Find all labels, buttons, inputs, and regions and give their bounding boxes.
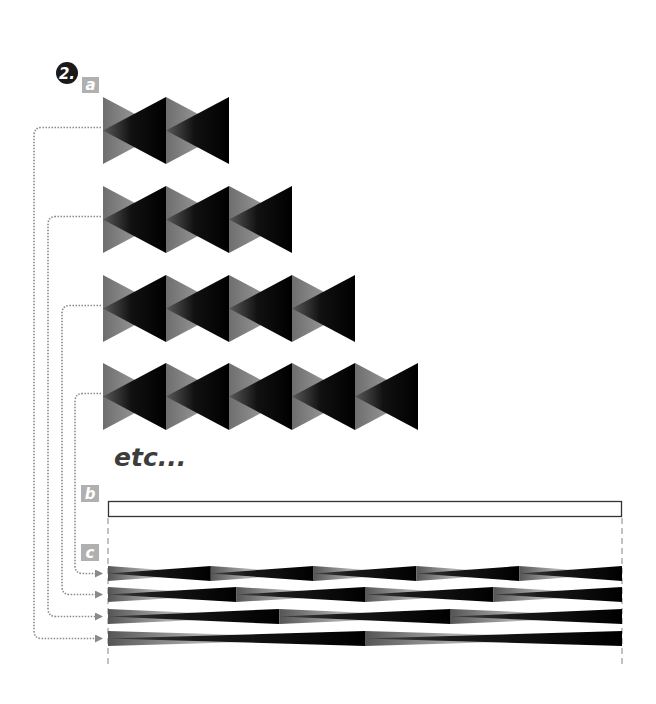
sequence-unit [229, 275, 292, 342]
diagram-canvas: 2. a etc... b c [0, 0, 656, 704]
strip-unit [365, 587, 494, 602]
empty-strip [109, 502, 622, 517]
strip-unit [108, 587, 237, 602]
sequence-unit [229, 186, 292, 253]
step-badge: 2. [56, 62, 78, 84]
strip-3-units [108, 609, 622, 624]
sequence-unit [166, 363, 229, 430]
sequence-unit [166, 186, 229, 253]
strip-unit [211, 566, 314, 581]
strip-unit [451, 609, 622, 624]
label-badge-c-text: c [86, 544, 95, 562]
strip-unit [279, 609, 450, 624]
strip-4-units [108, 587, 622, 602]
sequence-rows [103, 97, 418, 430]
sequence-unit [103, 186, 166, 253]
strip-rows [108, 566, 622, 646]
sequence-unit [355, 363, 418, 430]
sequence-2-units [103, 97, 229, 164]
strip-unit [237, 587, 366, 602]
strip-unit [108, 566, 211, 581]
strip-unit [494, 587, 623, 602]
strip-unit [416, 566, 519, 581]
label-badge-a-text: a [85, 76, 95, 94]
sequence-5-units [103, 363, 418, 430]
sequence-unit [103, 97, 166, 164]
sequence-unit [166, 97, 229, 164]
strip-5-units [108, 566, 622, 581]
sequence-unit [229, 363, 292, 430]
sequence-unit [103, 363, 166, 430]
strip-unit [314, 566, 417, 581]
label-badge-a: a [82, 76, 99, 94]
sequence-unit [103, 275, 166, 342]
label-badge-b: b [81, 485, 99, 503]
strip-unit [365, 631, 622, 646]
sequence-3-units [103, 186, 292, 253]
strip-2-units [108, 631, 622, 646]
strip-unit [108, 609, 279, 624]
etc-text: etc... [114, 443, 186, 472]
sequence-4-units [103, 275, 355, 342]
sequence-unit [292, 275, 355, 342]
strip-unit [108, 631, 365, 646]
step-number: 2. [59, 65, 75, 83]
label-badge-c: c [81, 544, 99, 562]
sequence-unit [166, 275, 229, 342]
sequence-unit [292, 363, 355, 430]
label-badge-b-text: b [85, 485, 96, 503]
strip-unit [519, 566, 622, 581]
